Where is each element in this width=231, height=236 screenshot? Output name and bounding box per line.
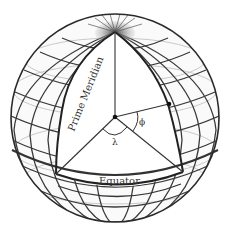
center-point <box>113 115 118 120</box>
phi-label: ϕ <box>139 117 145 127</box>
globe-graphic: Prime Meridian Equator λ ϕ <box>0 0 231 236</box>
surface-point <box>167 102 172 107</box>
sphere-diagram: Prime Meridian Equator λ ϕ <box>0 0 231 236</box>
lambda-label: λ <box>112 137 118 147</box>
equator-label: Equator <box>99 175 140 186</box>
